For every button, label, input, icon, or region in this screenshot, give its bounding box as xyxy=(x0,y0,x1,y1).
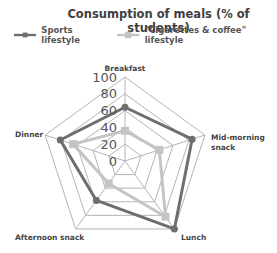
category-lunch: Lunch xyxy=(181,233,206,242)
category-mid-morning-line2: snack xyxy=(211,143,236,152)
data-point-marker xyxy=(93,197,100,204)
tick-80: 80 xyxy=(100,86,117,101)
tick-40: 40 xyxy=(100,120,117,135)
category-breakfast: Breakfast xyxy=(105,64,146,73)
data-point-marker xyxy=(161,213,169,221)
data-point-marker xyxy=(122,104,129,111)
series-cigarettes-coffee xyxy=(69,127,169,221)
category-dinner: Dinner xyxy=(15,130,44,139)
data-point-marker xyxy=(155,146,163,154)
category-afternoon-snack: Afternoon snack xyxy=(15,233,85,242)
tick-60: 60 xyxy=(100,103,117,118)
radar-chart: 0 20 40 60 80 100 Breakfast Mid-morning … xyxy=(0,0,277,253)
radar-series xyxy=(57,104,196,233)
tick-20: 20 xyxy=(100,137,117,152)
series-line xyxy=(73,131,165,217)
data-point-marker xyxy=(189,136,196,143)
data-point-marker xyxy=(57,136,64,143)
data-point-marker xyxy=(171,225,178,232)
axis-spoke xyxy=(76,161,125,229)
data-point-marker xyxy=(121,127,129,135)
series-sports xyxy=(57,104,196,233)
series-line xyxy=(60,107,192,229)
data-point-marker xyxy=(105,179,113,187)
tick-0: 0 xyxy=(109,154,117,169)
category-mid-morning-line1: Mid-morning xyxy=(211,133,265,142)
data-point-marker xyxy=(69,140,77,148)
